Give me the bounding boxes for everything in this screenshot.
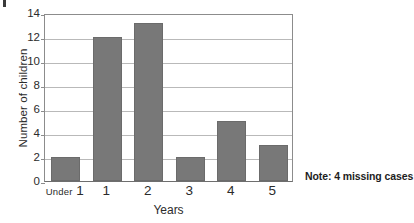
- bar: [217, 121, 246, 181]
- y-tick-label: 4: [18, 128, 40, 140]
- y-tick-label: 6: [18, 104, 40, 116]
- x-tick-label-prefix: Under: [46, 186, 73, 197]
- bar-chart-figure: Number of children 02468101214 Under 112…: [0, 0, 414, 223]
- y-tick-label: 8: [18, 80, 40, 92]
- x-tick-label-value: 2: [144, 183, 152, 198]
- x-tick-label: 4: [227, 183, 235, 199]
- y-tick-label: 14: [18, 8, 40, 20]
- y-tick-label: 2: [18, 152, 40, 164]
- x-tick-label-value: 3: [185, 183, 193, 198]
- y-tick-label: 0: [18, 176, 40, 188]
- x-tick-label: 5: [268, 183, 276, 199]
- y-axis-tick-labels: 02468101214: [18, 14, 40, 182]
- x-tick-label-value: 4: [227, 183, 235, 198]
- x-tick-label: 3: [185, 183, 193, 199]
- x-axis-title: Years: [44, 203, 293, 217]
- bar-series: [45, 15, 292, 181]
- x-tick-label: 1: [102, 183, 110, 199]
- bar: [259, 145, 288, 181]
- bar: [176, 157, 205, 181]
- bar: [51, 157, 80, 181]
- y-tick-label: 12: [18, 32, 40, 44]
- x-tick-label-value: 1: [102, 183, 110, 198]
- bar: [134, 23, 163, 181]
- missing-cases-note: Note: 4 missing cases: [305, 170, 413, 182]
- x-axis-tick-labels: Under 112345: [44, 183, 293, 203]
- bar: [93, 37, 122, 181]
- x-tick-label: Under 1: [46, 183, 84, 200]
- plot-area: [44, 14, 293, 182]
- x-tick-label-value: 1: [76, 183, 84, 198]
- x-tick-label-value: 5: [268, 183, 276, 198]
- x-tick-label: 2: [144, 183, 152, 199]
- y-tick-label: 10: [18, 56, 40, 68]
